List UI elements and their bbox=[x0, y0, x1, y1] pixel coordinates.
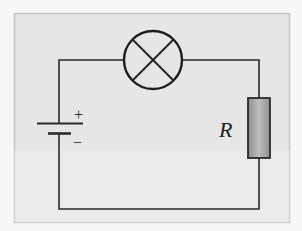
battery-positive-label: + bbox=[74, 106, 83, 123]
resistor-label: R bbox=[218, 117, 233, 142]
circuit-diagram: + − R bbox=[0, 0, 302, 231]
battery-negative-label: − bbox=[73, 134, 82, 151]
resistor-icon bbox=[248, 98, 270, 158]
